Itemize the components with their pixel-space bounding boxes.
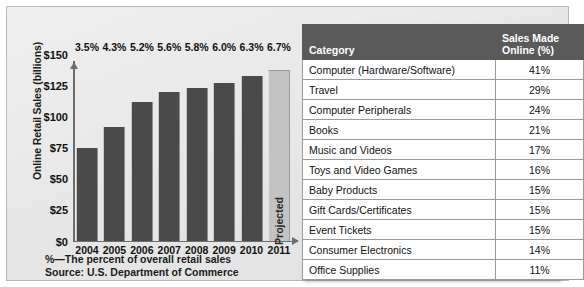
table-row: Office Supplies11% — [303, 260, 584, 280]
bar-percent-label-2010: 6.3% — [240, 41, 264, 53]
cell-percent: 14% — [496, 240, 584, 260]
cell-percent: 21% — [496, 120, 584, 140]
column-header-line-2: Online (%) — [502, 44, 554, 56]
bar-percent-label-2006: 5.2% — [130, 41, 154, 53]
bar-2006: 5.2% — [131, 102, 153, 240]
y-axis-title: Online Retail Sales (billions) — [31, 31, 43, 191]
bar-slot-2009: 6.0% — [212, 54, 236, 241]
bar-slot-2010: 6.3% — [240, 54, 264, 241]
chart-plot-area: $150$125$100$75$50$25$0 3.5%4.3%5.2%5.6%… — [73, 53, 295, 242]
y-axis-tick-100: $100 — [44, 111, 68, 123]
table-head: Category Sales Made Online (%) — [303, 25, 584, 60]
cell-category: Computer (Hardware/Software) — [303, 60, 496, 80]
table-row: Toys and Video Games16% — [303, 160, 584, 180]
cell-category: Toys and Video Games — [303, 160, 496, 180]
y-axis-tick-150: $150 — [44, 49, 68, 61]
cell-category: Books — [303, 120, 496, 140]
table-row: Computer (Hardware/Software)41% — [303, 60, 584, 80]
table-row: Consumer Electronics14% — [303, 240, 584, 260]
table-row: Event Tickets15% — [303, 220, 584, 240]
column-header-line-1: Sales Made — [502, 32, 559, 44]
bar-slot-2005: 4.3% — [102, 54, 126, 241]
table-row: Baby Products15% — [303, 180, 584, 200]
table-row: Books21% — [303, 120, 584, 140]
figure-panel: Online Retail Sales (billions) $150$125$… — [6, 6, 569, 281]
bar-slot-2008: 5.8% — [185, 54, 209, 241]
cell-category: Computer Peripherals — [303, 100, 496, 120]
table-row: Computer Peripherals24% — [303, 100, 584, 120]
bar-slot-2004: 3.5% — [75, 54, 99, 241]
cell-percent: 15% — [496, 220, 584, 240]
bar-percent-label-2011: 6.7% — [267, 41, 291, 53]
bar-percent-label-2008: 5.8% — [185, 41, 209, 53]
cell-category: Baby Products — [303, 180, 496, 200]
y-axis-tick-125: $125 — [44, 80, 68, 92]
bar-slot-2006: 5.2% — [130, 54, 154, 241]
table-row: Travel29% — [303, 80, 584, 100]
y-axis-tick-25: $25 — [50, 204, 68, 216]
cell-percent: 41% — [496, 60, 584, 80]
cell-percent: 24% — [496, 100, 584, 120]
cell-percent: 29% — [496, 80, 584, 100]
bar-percent-label-2005: 4.3% — [102, 41, 126, 53]
bar-chart: Online Retail Sales (billions) $150$125$… — [13, 13, 303, 276]
cell-percent: 15% — [496, 200, 584, 220]
cell-percent: 11% — [496, 260, 584, 280]
column-header-category: Category — [303, 25, 496, 60]
bar-2004: 3.5% — [76, 148, 98, 240]
sales-made-online-table: Category Sales Made Online (%) Computer … — [302, 24, 584, 280]
cell-category: Travel — [303, 80, 496, 100]
table-body: Computer (Hardware/Software)41%Travel29%… — [303, 60, 584, 280]
bar-2009: 6.0% — [213, 83, 235, 240]
cell-percent: 17% — [496, 140, 584, 160]
bar-note-2011: Projected — [273, 197, 285, 245]
table-row: Music and Videos17% — [303, 140, 584, 160]
bar-percent-label-2007: 5.6% — [157, 41, 181, 53]
cell-percent: 16% — [496, 160, 584, 180]
x-axis-arrow-icon — [292, 237, 299, 245]
bar-percent-label-2004: 3.5% — [75, 41, 99, 53]
caption-line-2: Source: U.S. Department of Commerce — [45, 266, 239, 279]
cell-category: Consumer Electronics — [303, 240, 496, 260]
x-axis-tick-2011: 2011 — [267, 244, 291, 256]
y-axis-tick-75: $75 — [50, 142, 68, 154]
bar-2005: 4.3% — [103, 127, 125, 240]
chart-caption: %—The percent of overall retail sales So… — [45, 253, 239, 278]
table-header-row: Category Sales Made Online (%) — [303, 25, 584, 60]
column-header-sales-made-online: Sales Made Online (%) — [496, 25, 584, 60]
cell-category: Gift Cards/Certificates — [303, 200, 496, 220]
bar-2010: 6.3% — [241, 76, 263, 241]
x-axis-tick-2010: 2010 — [240, 244, 264, 256]
bar-2007: 5.6% — [158, 92, 180, 240]
cell-category: Music and Videos — [303, 140, 496, 160]
cell-category: Office Supplies — [303, 260, 496, 280]
y-axis-tick-50: $50 — [50, 173, 68, 185]
bar-2008: 5.8% — [186, 88, 208, 240]
chart-bars: 3.5%4.3%5.2%5.6%5.8%6.0%6.3%6.7%Projecte… — [75, 54, 291, 241]
bar-2011: 6.7%Projected — [268, 70, 290, 241]
x-axis-line — [73, 241, 293, 243]
y-axis-tick-0: $0 — [56, 236, 68, 248]
caption-line-1: %—The percent of overall retail sales — [45, 253, 239, 266]
bar-slot-2011: 6.7%Projected — [267, 54, 291, 241]
bar-percent-label-2009: 6.0% — [212, 41, 236, 53]
bar-slot-2007: 5.6% — [157, 54, 181, 241]
sales-table-container: Category Sales Made Online (%) Computer … — [302, 24, 559, 280]
cell-percent: 15% — [496, 180, 584, 200]
cell-category: Event Tickets — [303, 220, 496, 240]
table-row: Gift Cards/Certificates15% — [303, 200, 584, 220]
